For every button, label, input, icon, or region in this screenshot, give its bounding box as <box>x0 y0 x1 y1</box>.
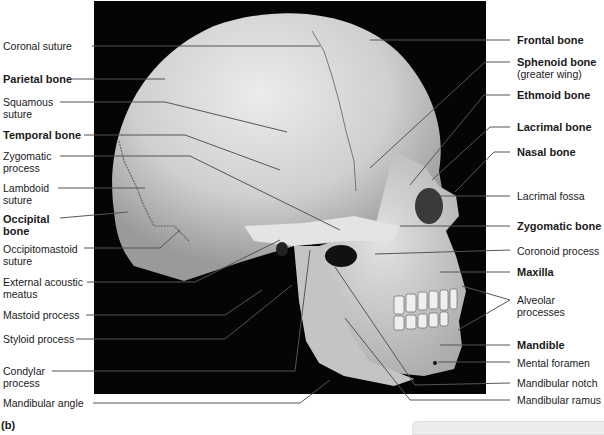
label-mandibular-notch: Mandibular notch <box>517 377 598 389</box>
label-squamous-suture: Squamoussuture <box>3 96 53 120</box>
label-styloid-process: Styloid process <box>3 333 74 345</box>
mental-foramen <box>433 361 437 365</box>
label-nasal-bone: Nasal bone <box>517 146 576 158</box>
label-parietal-bone: Parietal bone <box>3 73 72 85</box>
label-mastoid-process: Mastoid process <box>3 309 79 321</box>
label-frontal-bone: Frontal bone <box>517 34 584 46</box>
label-lacrimal-bone: Lacrimal bone <box>517 121 592 133</box>
label-ethmoid-bone: Ethmoid bone <box>517 89 590 101</box>
label-external-acoustic-meatus: External acousticmeatus <box>3 276 83 300</box>
label-temporal-bone: Temporal bone <box>3 129 81 141</box>
label-mandibular-angle: Mandibular angle <box>3 397 84 409</box>
skull-photo <box>94 1 486 394</box>
label-alveolar-processes: Alveolarprocesses <box>517 294 565 318</box>
label-lacrimal-fossa: Lacrimal fossa <box>517 190 585 202</box>
label-occipital-bone: Occipitalbone <box>3 213 49 237</box>
label-mandible: Mandible <box>517 339 565 351</box>
orbit <box>415 188 443 224</box>
label-condylar-process: Condylarprocess <box>3 365 45 389</box>
label-sphenoid-bone: Sphenoid bone(greater wing) <box>517 56 596 80</box>
label-mandibular-ramus: Mandibular ramus <box>517 394 601 406</box>
label-zygomatic-bone: Zygomatic bone <box>517 220 601 232</box>
label-coronoid-process: Coronoid process <box>517 245 599 257</box>
label-coronal-suture: Coronal suture <box>3 40 72 52</box>
mandibular-notch-opening <box>325 245 357 267</box>
label-occipitomastoid-suture: Occipitomastoidsuture <box>3 243 78 267</box>
caption-bar <box>412 421 604 435</box>
label-zygomatic-process: Zygomaticprocess <box>3 150 51 174</box>
label-lambdoid-suture: Lambdoidsuture <box>3 182 49 206</box>
ear-canal <box>276 242 288 256</box>
figure-part-label: (b) <box>1 419 15 431</box>
skull-illustration <box>94 1 486 394</box>
label-maxilla: Maxilla <box>517 266 554 278</box>
label-mental-foramen: Mental foramen <box>517 357 590 369</box>
